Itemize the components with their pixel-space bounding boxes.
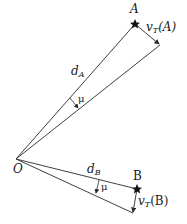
label-A: A	[130, 3, 139, 15]
dB-main: d	[87, 162, 95, 176]
vA-main: v	[146, 20, 153, 34]
vA-arg: (A)	[158, 20, 176, 34]
dB-sub: B	[95, 168, 101, 177]
label-dA: dA	[71, 65, 84, 79]
dA-sub: A	[79, 70, 85, 79]
label-vT-A: vT(A)	[146, 21, 176, 35]
angle-mu-upper-arc	[70, 98, 78, 108]
line-O-to-A	[16, 24, 135, 159]
angle-mu-lower-arc	[96, 180, 99, 193]
label-mu-upper: μ	[78, 94, 85, 104]
label-dB: dB	[87, 163, 101, 177]
label-mu-lower: μ	[101, 182, 108, 192]
line-O-to-A-end	[16, 45, 160, 159]
vB-arg: (B)	[150, 194, 168, 208]
label-vT-B: vT(B)	[138, 195, 168, 209]
vB-main: v	[138, 194, 145, 208]
dA-main: d	[71, 64, 79, 78]
label-O: O	[13, 163, 23, 175]
line-O-to-B	[16, 159, 137, 189]
diagram-canvas: A vT(A) dA μ O dB μ B vT(B)	[0, 0, 187, 224]
line-O-to-B-end	[16, 159, 133, 213]
label-B: B	[133, 170, 142, 182]
star-B-icon	[132, 184, 142, 194]
